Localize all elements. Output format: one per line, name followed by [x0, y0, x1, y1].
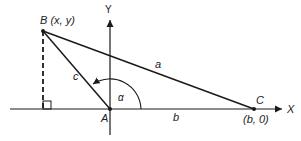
angle-alpha-label: α: [118, 92, 124, 103]
right-angle-marker: [43, 101, 51, 109]
y-axis-label: Y: [105, 4, 112, 15]
triangle-diagram: Y X B (x, y) A C (b, 0) a b c α: [0, 0, 301, 141]
x-axis-label: X: [286, 103, 295, 115]
point-b-label: B (x, y): [40, 14, 75, 26]
side-b-label: b: [173, 111, 179, 123]
angle-alpha-arc: [93, 79, 141, 109]
point-c-label: C: [256, 94, 264, 106]
point-a: [108, 107, 112, 111]
point-b: [41, 29, 45, 33]
point-c: [252, 107, 256, 111]
side-a-label: a: [155, 58, 161, 70]
point-c-coord-label: (b, 0): [243, 113, 269, 125]
point-a-label: A: [100, 112, 108, 124]
side-c-label: c: [73, 70, 79, 82]
